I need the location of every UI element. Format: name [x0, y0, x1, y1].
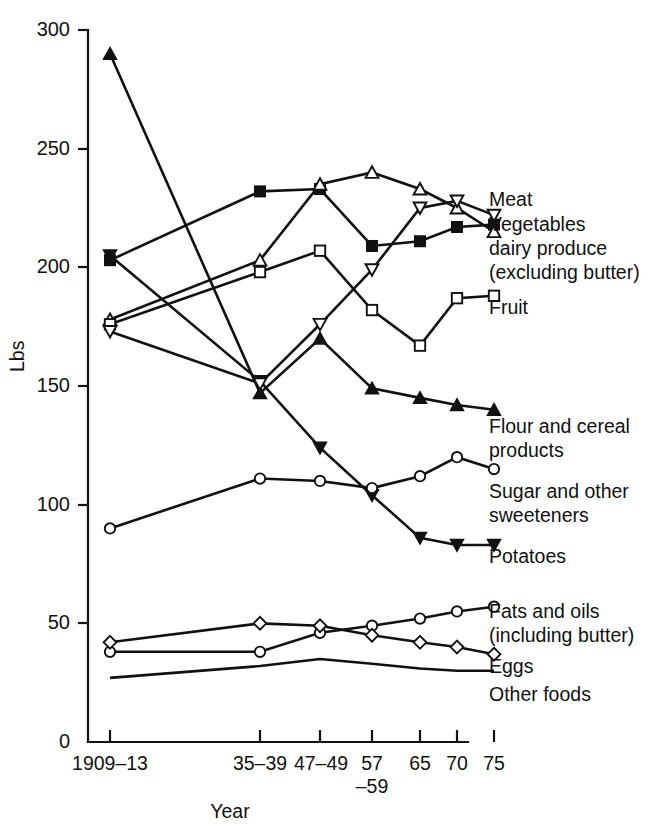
open-circle-marker — [255, 647, 265, 657]
filled-square-marker — [415, 236, 425, 246]
open-square-marker — [255, 267, 265, 277]
open-diamond-marker — [414, 636, 427, 649]
legend-label-potatoes: Potatoes — [489, 545, 566, 569]
legend-label-eggs: Eggs — [489, 655, 533, 679]
ytick-300: 300 — [6, 18, 70, 41]
x-axis-title: Year — [0, 800, 460, 823]
legend-label-sugar: Sugar and other sweeteners — [489, 480, 629, 528]
open-square-marker — [367, 305, 377, 315]
axes — [78, 30, 494, 742]
series-fats-and-oils-including-butter — [105, 602, 499, 657]
open-circle-marker — [105, 523, 115, 533]
series-line — [110, 251, 494, 346]
y-axis-title: Lbs — [6, 292, 29, 372]
open-circle-marker — [415, 613, 425, 623]
open-diamond-marker — [254, 617, 267, 630]
xtick-1909-13: 1909–13 — [50, 752, 170, 775]
open-square-marker — [452, 293, 462, 303]
series-potatoes — [104, 250, 501, 551]
legend-label-meat: Meat — [489, 188, 532, 212]
series-vegetables-secondary — [104, 195, 501, 389]
y-axis-ticks — [78, 30, 88, 623]
series-flour-and-cereal-products — [104, 48, 501, 416]
open-circle-marker — [367, 483, 377, 493]
series-other-foods — [110, 659, 494, 678]
series-line — [110, 457, 494, 528]
open-circle-marker — [452, 452, 462, 462]
open-diamond-marker — [104, 636, 117, 649]
open-circle-marker — [452, 606, 462, 616]
xtick-75: 75 — [466, 752, 522, 775]
series-layer — [104, 48, 501, 678]
x-axis-ticks — [110, 730, 494, 742]
ytick-0: 0 — [6, 730, 70, 753]
filled-triangle-up-marker — [314, 332, 327, 344]
ytick-50: 50 — [6, 611, 70, 634]
series-line — [110, 659, 494, 678]
legend-label-fats: Fats and oils (including butter) — [489, 600, 634, 648]
series-meat — [105, 184, 499, 266]
filled-square-marker — [452, 222, 462, 232]
legend-label-other: Other foods — [489, 683, 591, 707]
series-line — [110, 172, 494, 319]
chart-container: 300 250 200 150 100 50 0 1909–13 35–39 4… — [0, 0, 664, 840]
series-line — [110, 189, 494, 260]
filled-square-marker — [255, 186, 265, 196]
ytick-250: 250 — [6, 137, 70, 160]
open-triangle-up-marker — [366, 166, 379, 178]
open-circle-marker — [415, 471, 425, 481]
open-circle-marker — [315, 476, 325, 486]
legend-label-fruit: Fruit — [489, 296, 528, 320]
legend-label-vegetables: Vegetables dairy produce (excluding butt… — [489, 213, 640, 284]
series-sugar-and-other-sweeteners — [105, 452, 499, 534]
open-circle-marker — [489, 464, 499, 474]
series-line — [110, 54, 494, 410]
filled-triangle-up-marker — [104, 48, 117, 60]
open-circle-marker — [255, 473, 265, 483]
ytick-200: 200 — [6, 255, 70, 278]
open-square-marker — [415, 340, 425, 350]
ytick-100: 100 — [6, 493, 70, 516]
ytick-150: 150 — [6, 374, 70, 397]
legend-label-flour: Flour and cereal products — [489, 415, 630, 463]
open-square-marker — [315, 246, 325, 256]
open-diamond-marker — [451, 641, 464, 654]
open-diamond-marker — [366, 629, 379, 642]
filled-square-marker — [367, 241, 377, 251]
